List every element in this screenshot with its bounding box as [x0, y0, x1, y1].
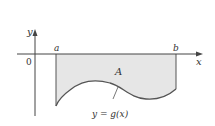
curve-label-leader — [113, 87, 118, 99]
origin-label: 0 — [26, 57, 32, 67]
region-label: A — [114, 66, 122, 77]
curve-label: y = g(x) — [91, 109, 129, 119]
bound-b-label: b — [173, 43, 179, 53]
x-axis-label: x — [196, 56, 202, 67]
y-axis-label: y — [26, 26, 33, 37]
area-diagram: y x 0 a b A y = g(x) — [0, 0, 215, 126]
y-axis-arrow-icon — [33, 29, 38, 36]
bound-a-label: a — [54, 43, 59, 53]
